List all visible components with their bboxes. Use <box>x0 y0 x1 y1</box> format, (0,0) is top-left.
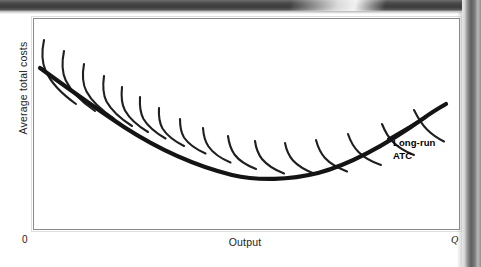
short-run-atc-curve-12 <box>285 143 315 174</box>
annotation-pointer-line <box>388 118 424 139</box>
cost-curve-plot <box>0 0 481 267</box>
long-run-atc-annotation: Long-run ATC <box>393 137 435 162</box>
short-run-atc-curves <box>42 40 444 174</box>
short-run-atc-curve-10 <box>228 136 256 169</box>
y-axis-label: Average total costs <box>17 18 29 158</box>
origin-tick-label: 0 <box>22 234 28 245</box>
short-run-atc-curve-6 <box>140 97 166 139</box>
short-run-atc-curve-9 <box>203 128 231 163</box>
x-axis-label: Output <box>200 236 290 248</box>
short-run-atc-curve-4 <box>103 76 132 126</box>
annotation-line-1: Long-run <box>393 137 435 150</box>
short-run-atc-curve-5 <box>122 87 148 132</box>
annotation-line-2: ATC <box>393 150 435 163</box>
scanned-figure-page: Average total costs Output 0 Q Long-run … <box>0 0 481 267</box>
x-axis-end-tick-label: Q <box>451 234 458 245</box>
short-run-atc-curve-11 <box>255 141 284 174</box>
short-run-atc-curve-8 <box>180 119 206 154</box>
